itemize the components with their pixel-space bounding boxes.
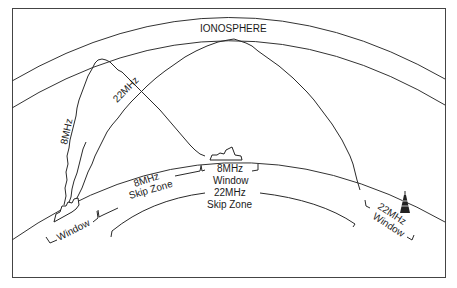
- window-8mhz-label-2: Window: [213, 175, 249, 186]
- skip-zone-22mhz-label-1: 22MHz: [214, 187, 246, 198]
- window-8mhz-label-1: 8MHz: [217, 163, 243, 174]
- skip-zone-22mhz-label-2: Skip Zone: [207, 199, 252, 210]
- ionosphere-label: IONOSPHERE: [200, 23, 267, 34]
- diagram: IONOSPHERE 8MHz 22MHz Window 8MHz Skip Z…: [0, 0, 457, 288]
